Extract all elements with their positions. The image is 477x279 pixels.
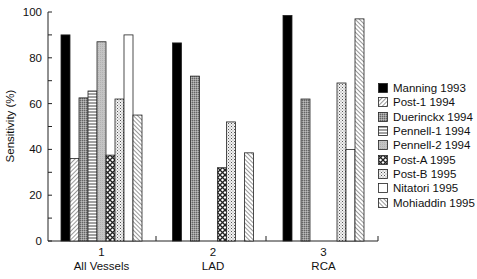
bar [115, 99, 124, 241]
legend-item: Manning 1993 [378, 81, 475, 95]
bar [61, 35, 70, 241]
legend-swatch [378, 126, 388, 136]
legend-swatch [378, 140, 388, 150]
bar [79, 98, 88, 241]
y-tick-label: 40 [29, 143, 42, 155]
bar [133, 115, 142, 241]
bar [191, 76, 200, 241]
y-tick-label: 80 [29, 52, 42, 64]
legend-label: Pennell-1 1994 [393, 125, 470, 137]
legend-label: Post-1 1994 [393, 96, 455, 108]
legend-item: Post-1 1994 [378, 95, 475, 109]
bar [106, 155, 115, 241]
x-tick-number: 3 [320, 246, 326, 258]
legend-label: Post-B 1995 [393, 168, 456, 180]
bar [218, 168, 227, 241]
legend-label: Nitatori 1995 [393, 182, 458, 194]
legend-swatch [378, 83, 388, 93]
legend-swatch [378, 198, 388, 208]
legend-swatch [378, 97, 388, 107]
x-tick-number: 1 [98, 246, 104, 258]
bar [88, 91, 97, 241]
bar [173, 43, 182, 241]
bar [245, 153, 254, 241]
y-axis-label: Sensitivity (%) [4, 89, 16, 162]
y-tick-label: 0 [36, 235, 42, 247]
legend-swatch [378, 183, 388, 193]
legend-item: Mohiaddin 1995 [378, 195, 475, 209]
x-axis-labels: 1All Vessels2LAD3RCA [74, 246, 336, 272]
legend-item: Post-B 1995 [378, 167, 475, 181]
legend-item: Duerinckx 1994 [378, 110, 475, 124]
legend-item: Post-A 1995 [378, 152, 475, 166]
y-tick-label: 60 [29, 98, 42, 110]
bar [346, 149, 355, 241]
bar [97, 42, 106, 241]
bars-group [61, 15, 364, 241]
bar [227, 122, 236, 241]
bar [124, 35, 133, 241]
bar [355, 19, 364, 241]
legend-swatch [378, 155, 388, 165]
x-tick-label: LAD [202, 260, 224, 272]
legend-item: Nitatori 1995 [378, 181, 475, 195]
legend-item: Pennell-1 1994 [378, 124, 475, 138]
legend-swatch [378, 112, 388, 122]
y-tick-label: 20 [29, 189, 42, 201]
y-tick-label: 100 [23, 6, 42, 18]
chart-legend: Manning 1993Post-1 1994Duerinckx 1994Pen… [378, 81, 475, 210]
legend-label: Manning 1993 [393, 82, 466, 94]
bar [301, 99, 310, 241]
bar [283, 15, 292, 241]
legend-label: Pennell-2 1994 [393, 139, 470, 151]
bar [337, 83, 346, 241]
legend-label: Mohiaddin 1995 [393, 197, 475, 209]
legend-item: Pennell-2 1994 [378, 138, 475, 152]
bar [70, 159, 79, 241]
legend-label: Post-A 1995 [393, 154, 456, 166]
legend-label: Duerinckx 1994 [393, 111, 473, 123]
legend-swatch [378, 169, 388, 179]
x-tick-label: RCA [311, 260, 336, 272]
x-tick-number: 2 [210, 246, 216, 258]
x-tick-label: All Vessels [74, 260, 130, 272]
